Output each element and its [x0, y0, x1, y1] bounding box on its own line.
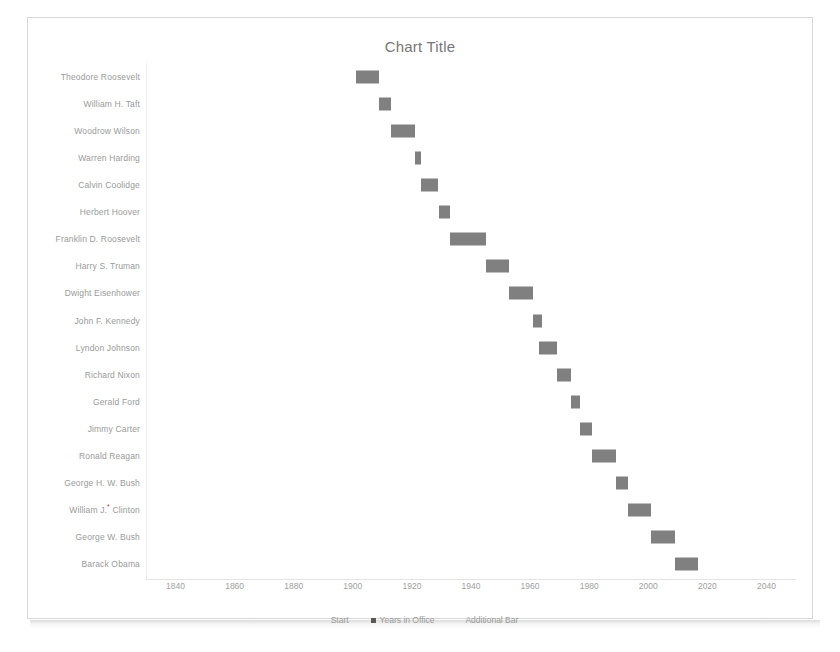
bar-segment-years-in-office[interactable] [539, 341, 557, 354]
bar-segment-years-in-office[interactable] [533, 314, 542, 327]
bar-segment-start [146, 368, 557, 381]
bar-segment-years-in-office[interactable] [379, 97, 391, 110]
bar-segment-years-in-office[interactable] [486, 260, 510, 273]
bar-segment-start [146, 531, 651, 544]
bar-segment-start [146, 287, 509, 300]
x-axis-tick-label: 1860 [225, 581, 244, 591]
x-axis-tick-label: 1920 [402, 581, 421, 591]
legend-item[interactable]: Years in Office [371, 615, 435, 625]
bar-segment-start [146, 422, 580, 435]
bar-segment-years-in-office[interactable] [592, 450, 616, 463]
legend-swatch-icon [322, 618, 327, 623]
legend-label: Start [331, 615, 349, 625]
bar-segment-years-in-office[interactable] [616, 477, 628, 490]
bar-segment-start [146, 450, 592, 463]
bar-segment-years-in-office[interactable] [675, 558, 699, 571]
category-label: George H. W. Bush [64, 478, 140, 488]
plot-area[interactable] [146, 63, 796, 578]
legend-label: Years in Office [380, 615, 435, 625]
bar-segment-start [146, 151, 415, 164]
category-label: Warren Harding [78, 153, 140, 163]
category-label: Ronald Reagan [79, 451, 140, 461]
bar-segment-years-in-office[interactable] [450, 233, 485, 246]
bar-segment-start [146, 97, 379, 110]
bar-segment-years-in-office[interactable] [391, 124, 415, 137]
bar-segment-start [146, 477, 616, 490]
category-label: Jimmy Carter [88, 424, 140, 434]
category-label: William H. Taft [84, 99, 140, 109]
bar-segment-years-in-office[interactable] [651, 531, 675, 544]
category-label: Harry S. Truman [75, 261, 140, 271]
bar-segment-years-in-office[interactable] [628, 504, 652, 517]
legend-swatch-icon [456, 618, 461, 623]
legend-item[interactable]: Additional Bar [456, 615, 518, 625]
bar-segment-years-in-office[interactable] [415, 151, 421, 164]
legend-item[interactable]: Start [322, 615, 349, 625]
bar-segment-start [146, 70, 356, 83]
bar-segment-years-in-office[interactable] [356, 70, 380, 83]
chart-title: Chart Title [28, 38, 812, 55]
category-label: Franklin D. Roosevelt [56, 234, 140, 244]
category-label: Herbert Hoover [80, 207, 140, 217]
bar-segment-start [146, 314, 533, 327]
bar-segment-start [146, 124, 391, 137]
value-axis-labels: 1840186018801900192019401960198020002020… [146, 581, 796, 597]
bar-segment-start [146, 260, 486, 273]
legend-label: Additional Bar [465, 615, 518, 625]
bar-segment-years-in-office[interactable] [557, 368, 572, 381]
bar-segment-start [146, 178, 421, 191]
category-label: Woodrow Wilson [74, 126, 140, 136]
bar-segment-start [146, 233, 450, 246]
bar-segment-years-in-office[interactable] [439, 206, 451, 219]
category-label: Theodore Roosevelt [61, 72, 140, 82]
bar-segment-years-in-office[interactable] [421, 178, 439, 191]
x-axis-tick-label: 1940 [462, 581, 481, 591]
chart-legend[interactable]: StartYears in OfficeAdditional Bar [28, 615, 812, 625]
bar-segment-years-in-office[interactable] [571, 395, 580, 408]
category-label: Lyndon Johnson [76, 343, 140, 353]
x-axis-tick-label: 2040 [757, 581, 776, 591]
bar-segment-start [146, 395, 571, 408]
x-axis-tick-label: 1840 [166, 581, 185, 591]
bar-segment-years-in-office[interactable] [580, 422, 592, 435]
chart-container[interactable]: Chart Title Theodore RooseveltWilliam H.… [27, 17, 813, 619]
category-label: Calvin Coolidge [78, 180, 140, 190]
category-label: Dwight Eisenhower [65, 288, 140, 298]
x-axis-tick-label: 2020 [698, 581, 717, 591]
bar-segment-start [146, 504, 628, 517]
x-axis-tick-label: 1880 [284, 581, 303, 591]
category-label: John F. Kennedy [74, 316, 140, 326]
legend-swatch-icon [371, 618, 376, 623]
category-axis-labels: Theodore RooseveltWilliam H. TaftWoodrow… [28, 63, 146, 578]
bar-segment-start [146, 206, 439, 219]
bar-segment-years-in-office[interactable] [509, 287, 533, 300]
footnote-marker: * [107, 503, 110, 510]
x-axis-tick-label: 2000 [639, 581, 658, 591]
x-axis-tick-label: 1980 [580, 581, 599, 591]
category-label: George W. Bush [76, 532, 140, 542]
screenshot-root: Chart Title Theodore RooseveltWilliam H.… [0, 0, 840, 652]
category-label: Richard Nixon [85, 370, 140, 380]
category-label: Gerald Ford [93, 397, 140, 407]
bar-segment-start [146, 558, 675, 571]
category-label: Barack Obama [82, 559, 141, 569]
x-axis-tick-label: 1900 [343, 581, 362, 591]
x-axis-line [146, 579, 796, 580]
category-label: William J.* Clinton [69, 505, 140, 515]
x-axis-tick-label: 1960 [521, 581, 540, 591]
bar-segment-start [146, 341, 539, 354]
